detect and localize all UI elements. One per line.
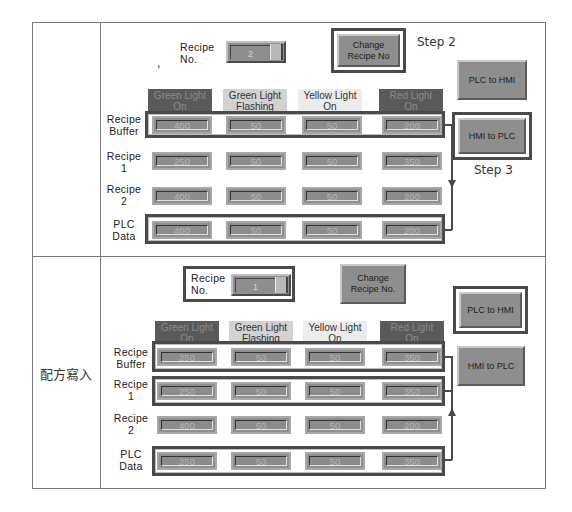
value-field[interactable]: 50 — [231, 452, 291, 470]
value-text: 400 — [161, 420, 213, 430]
value-field[interactable]: 200 — [382, 116, 442, 134]
value-field[interactable]: 350 — [382, 348, 442, 366]
value-text: 50 — [306, 225, 358, 235]
value-text: 50 — [306, 156, 358, 166]
recipe-no-input[interactable]: 2 — [226, 41, 286, 63]
value-text: 400 — [156, 225, 208, 235]
value-text: 350 — [386, 156, 438, 166]
value-field[interactable]: 350 — [382, 452, 442, 470]
table-row-divider — [32, 256, 546, 257]
value-text: 50 — [235, 386, 287, 396]
plc-to-hmi-button[interactable]: PLC to HMI — [459, 292, 522, 328]
value-field[interactable]: 50 — [226, 152, 286, 170]
spinner-handle[interactable] — [270, 44, 283, 60]
value-text: 200 — [386, 420, 438, 430]
value-text: 50 — [235, 456, 287, 466]
value-text: 50 — [306, 191, 358, 201]
value-text: 50 — [309, 420, 361, 430]
value-text: 200 — [386, 120, 438, 130]
stray-mark: , — [157, 56, 160, 70]
change-recipe-button[interactable]: Change Recipe No — [337, 34, 400, 67]
value-field[interactable]: 50 — [302, 187, 362, 205]
recipe-no-value: 1 — [235, 278, 275, 292]
value-field[interactable]: 50 — [226, 221, 286, 239]
value-text: 200 — [386, 225, 438, 235]
value-text: 50 — [230, 156, 282, 166]
value-field[interactable]: 400 — [152, 221, 212, 239]
flow-line — [445, 390, 452, 392]
hmi-to-plc-button[interactable]: HMI to PLC — [457, 346, 525, 386]
hmi-to-plc-button[interactable]: HMI to PLC — [458, 118, 526, 154]
value-field[interactable]: 350 — [382, 382, 442, 400]
recipe-no-input[interactable]: 1 — [231, 274, 291, 296]
value-field[interactable]: 50 — [305, 452, 365, 470]
table-border-bottom — [32, 488, 546, 489]
flow-line — [445, 229, 452, 231]
value-field[interactable]: 50 — [231, 416, 291, 434]
row-label: Recipe 1 — [104, 150, 144, 174]
flow-line — [451, 124, 453, 230]
row-label-recipe-write: 配方寫入 — [32, 364, 100, 383]
table-border-right — [545, 22, 546, 489]
value-text: 250 — [161, 456, 213, 466]
value-field[interactable]: 250 — [157, 382, 217, 400]
arrow-down-icon — [448, 180, 456, 188]
row-label: Recipe 1 — [110, 378, 152, 402]
step3-label: Step 3 — [474, 163, 513, 177]
value-field[interactable]: 400 — [152, 187, 212, 205]
value-field[interactable]: 250 — [157, 452, 217, 470]
value-field[interactable]: 200 — [382, 187, 442, 205]
change-recipe-frame: Change Recipe No — [331, 28, 406, 73]
change-recipe-button[interactable]: Change Recipe No. — [340, 264, 406, 304]
value-field[interactable]: 250 — [152, 152, 212, 170]
value-text: 50 — [230, 225, 282, 235]
value-text: 250 — [161, 386, 213, 396]
row-label: Recipe 2 — [104, 183, 144, 207]
row-label: Recipe Buffer — [110, 346, 152, 370]
value-field[interactable]: 400 — [157, 416, 217, 434]
value-text: 50 — [309, 456, 361, 466]
value-field[interactable]: 400 — [152, 116, 212, 134]
recipe-no-label: Recipe No. — [191, 272, 225, 296]
value-field[interactable]: 200 — [382, 221, 442, 239]
row-label: Recipe 2 — [110, 412, 152, 436]
value-text: 200 — [386, 191, 438, 201]
value-text: 400 — [156, 191, 208, 201]
table-border-left — [32, 22, 33, 489]
recipe-no-frame: Recipe No. 1 — [183, 266, 295, 302]
value-text: 400 — [156, 120, 208, 130]
value-text: 50 — [235, 420, 287, 430]
step2-label: Step 2 — [417, 35, 456, 49]
value-field[interactable]: 350 — [382, 152, 442, 170]
table-border-top — [32, 22, 546, 23]
value-text: 250 — [161, 352, 213, 362]
flow-line — [445, 459, 452, 461]
value-field[interactable]: 250 — [157, 348, 217, 366]
value-field[interactable]: 50 — [302, 116, 362, 134]
row-label: Recipe Buffer — [104, 113, 144, 137]
value-text: 50 — [230, 191, 282, 201]
value-text: 50 — [235, 352, 287, 362]
value-text: 350 — [386, 352, 438, 362]
recipe-no-value: 2 — [230, 45, 270, 59]
value-field[interactable]: 50 — [305, 416, 365, 434]
value-field[interactable]: 200 — [382, 416, 442, 434]
value-field[interactable]: 50 — [302, 221, 362, 239]
value-field[interactable]: 50 — [231, 382, 291, 400]
value-field[interactable]: 50 — [305, 382, 365, 400]
value-text: 50 — [309, 386, 361, 396]
plc-to-hmi-frame: PLC to HMI — [453, 286, 528, 334]
value-text: 350 — [386, 456, 438, 466]
value-field[interactable]: 50 — [226, 116, 286, 134]
plc-to-hmi-button[interactable]: PLC to HMI — [457, 60, 527, 100]
value-field[interactable]: 50 — [226, 187, 286, 205]
hmi-to-plc-frame: HMI to PLC — [452, 112, 532, 160]
value-field[interactable]: 50 — [231, 348, 291, 366]
value-field[interactable]: 50 — [305, 348, 365, 366]
value-text: 50 — [230, 120, 282, 130]
spinner-handle[interactable] — [275, 277, 288, 293]
value-text: 250 — [156, 156, 208, 166]
value-field[interactable]: 50 — [302, 152, 362, 170]
value-text: 350 — [386, 386, 438, 396]
table-col-divider — [100, 22, 101, 489]
